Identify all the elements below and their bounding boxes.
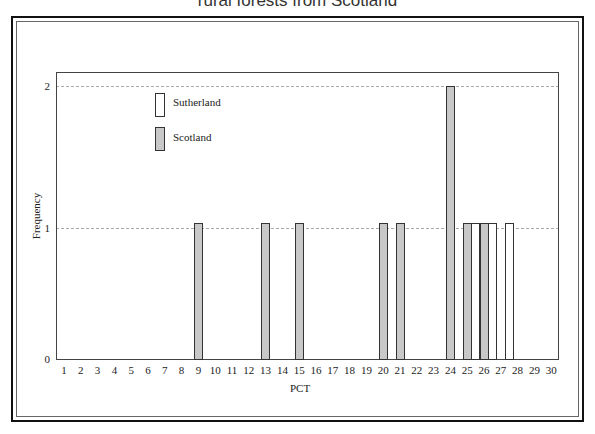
bar-scotland-20 <box>379 223 388 360</box>
bar-sutherland-26.5 <box>488 223 497 360</box>
legend-label-sutherland: Sutherland <box>173 96 221 108</box>
legend-swatch-sutherland <box>155 93 165 117</box>
bar-scotland-9 <box>194 223 203 360</box>
x-axis-label: PCT <box>290 382 310 394</box>
bar-scotland-21 <box>396 223 405 360</box>
y-axis-label: Frequency <box>30 186 42 246</box>
legend-swatch-scotland <box>155 127 165 151</box>
x-tick-30: 30 <box>541 364 561 376</box>
bar-sutherland-25.5 <box>471 223 480 360</box>
legend-label-scotland: Scotland <box>173 131 212 143</box>
y-tick-2: 2 <box>30 80 50 92</box>
bar-scotland-13 <box>261 223 270 360</box>
bar-sutherland-27.5 <box>505 223 514 360</box>
bar-scotland-24 <box>446 86 455 360</box>
y-tick-0: 0 <box>30 353 50 365</box>
chart-title: rural forests from Scotland <box>0 0 595 11</box>
bar-scotland-15 <box>295 223 304 360</box>
